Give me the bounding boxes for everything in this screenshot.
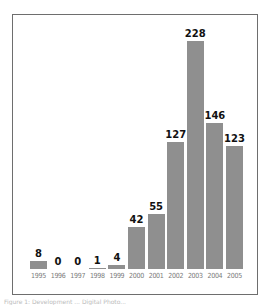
bar-2005 xyxy=(226,146,243,269)
bar-2000 xyxy=(128,227,145,269)
value-label-2004: 146 xyxy=(200,110,230,121)
bar-2003 xyxy=(187,41,204,269)
bar-2004 xyxy=(206,123,223,269)
value-label-2003: 228 xyxy=(180,28,210,39)
category-label-2005: 2005 xyxy=(224,272,246,280)
value-label-2005: 123 xyxy=(220,133,250,144)
bar-1998 xyxy=(89,268,106,269)
bar-1999 xyxy=(108,265,125,269)
figure-caption: Figure 1: Development ... Digital Photo.… xyxy=(4,298,126,305)
bar-2001 xyxy=(148,214,165,269)
chart-frame: 8199501996019971199841999422000552001127… xyxy=(12,14,258,295)
bar-chart-plot: 8199501996019971199841999422000552001127… xyxy=(13,15,259,296)
bar-2002 xyxy=(167,142,184,269)
